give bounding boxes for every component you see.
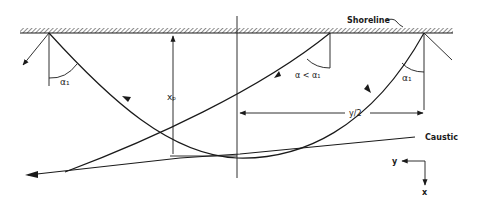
- axis-x-label: x: [422, 188, 428, 197]
- ray-left-curve: [49, 33, 424, 158]
- ray-stub-right: [424, 33, 452, 60]
- angle-arc-left: [49, 64, 77, 78]
- shoreline: [20, 28, 453, 33]
- axis-y-label: y: [392, 157, 398, 166]
- caustic-arrow: [25, 171, 38, 178]
- angle-arc-mid: [307, 59, 330, 68]
- axis-indicator: [402, 161, 425, 185]
- alpha-left-label: α₁: [60, 77, 70, 87]
- alpha-mid-label: α < α₁: [295, 71, 321, 80]
- caustic-ray-diagram: Shoreline Caustic α₁ α < α₁ α₁ xₚ y/2 y …: [0, 0, 479, 211]
- ray-arrow-right: [364, 84, 371, 93]
- caustic-label: Caustic: [425, 133, 458, 142]
- ray-stub-left: [23, 33, 49, 65]
- angle-arc-right: [402, 63, 424, 72]
- xp-label: xₚ: [167, 92, 176, 102]
- half-y-label: y/2: [349, 109, 362, 118]
- alpha-right-label: α₁: [402, 73, 412, 83]
- ray-arrow-left: [122, 96, 131, 102]
- shoreline-label: Shoreline: [347, 16, 391, 25]
